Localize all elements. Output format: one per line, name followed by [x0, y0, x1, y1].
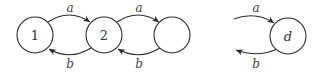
node-d-label: d — [284, 29, 292, 44]
edge-d-to-open-b — [236, 49, 277, 54]
edge-label-d-open: b — [252, 57, 260, 71]
edge-label-2-3: a — [135, 1, 142, 15]
edge-label-1-2: a — [66, 1, 73, 15]
node-3 — [154, 17, 190, 53]
edge-label-3-2: b — [135, 57, 143, 71]
edge-1-to-2-a — [48, 15, 90, 22]
edge-open-to-d-a — [234, 16, 274, 23]
edge-2-to-1-b — [49, 48, 91, 55]
state-diagram: 1 2 d a b a b a b — [0, 0, 324, 72]
edge-3-to-2-b — [118, 48, 160, 55]
edge-label-open-d: a — [252, 1, 259, 15]
node-d: d — [270, 18, 306, 54]
node-2-label: 2 — [100, 28, 108, 43]
edge-2-to-3-a — [117, 15, 159, 22]
node-2: 2 — [86, 17, 122, 53]
node-1: 1 — [17, 17, 53, 53]
node-1-label: 1 — [31, 28, 39, 43]
edge-label-2-1: b — [66, 57, 74, 71]
